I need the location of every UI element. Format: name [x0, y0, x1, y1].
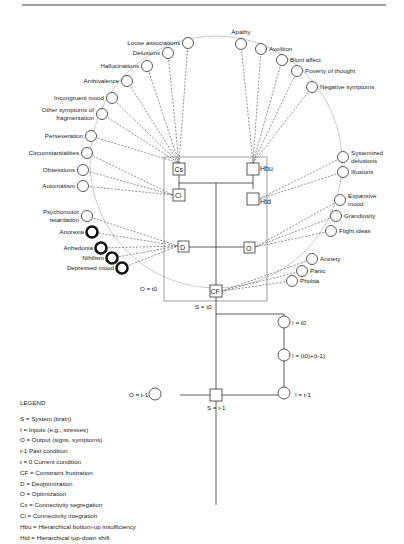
symptom-node: Grandiosity — [331, 211, 377, 222]
symptom-node: Anhedonia — [63, 243, 106, 254]
symptom-node: Hallucinations — [100, 61, 152, 72]
symptom-node: Psychomotorretardation — [43, 208, 93, 223]
symptom-label: Anorexia — [60, 228, 85, 235]
symptom-node: Circumstantialities — [29, 148, 93, 159]
symptom-node: Loose associations — [127, 38, 193, 49]
node-D: D — [178, 241, 189, 252]
legend-item: O = Optimization — [20, 489, 136, 500]
symptom-label: Other symptoms offragmentation — [42, 106, 95, 121]
symptom-label: Blunt affect — [290, 56, 321, 63]
symptom-label: Grandiosity — [344, 212, 376, 219]
symptom-label: Depressed mood — [67, 264, 115, 271]
legend-item: t-1 Past condition — [20, 446, 136, 457]
legend-title: LEGEND — [20, 398, 136, 409]
input-node-t1: I = t-1 — [278, 387, 312, 399]
input-node-mid: I = (t0)+(t-1) — [278, 349, 325, 361]
node-Hbu: Hbu — [247, 163, 273, 175]
node-CF: CF — [210, 285, 222, 297]
symptom-label: Perseveration — [45, 132, 84, 139]
input-node-t0: I = t0 — [278, 316, 306, 328]
symptom-node: Automatism — [42, 181, 88, 192]
legend-item: Htd = Hierarchical top-down shift — [20, 533, 136, 544]
svg-text:S = t-1: S = t-1 — [207, 404, 226, 411]
node-O: O — [244, 242, 255, 253]
symptom-label: Negative symptoms — [320, 83, 374, 90]
symptom-label: Flight ideas — [339, 227, 371, 234]
system-box-label: S = t0 — [195, 303, 212, 310]
symptom-node: Depressed mood — [67, 263, 128, 274]
legend-item: Ci = Connectivity integration — [20, 511, 136, 522]
symptom-node: Anorexia — [60, 227, 98, 238]
system-box — [164, 157, 267, 301]
symptom-label: Psychomotorretardation — [43, 208, 80, 223]
svg-text:Cs: Cs — [175, 166, 184, 173]
symptom-label: Circumstantialities — [29, 149, 79, 156]
legend-item: CF = Constraint frustration — [20, 468, 136, 479]
symptom-label: Anxiety — [320, 255, 341, 262]
svg-text:O: O — [246, 245, 252, 252]
internal-connections — [179, 175, 284, 505]
node-Cs: Cs — [173, 163, 185, 175]
symptom-label: Apathy — [231, 28, 251, 35]
symptom-label: Incongruent mood — [54, 94, 104, 101]
symptom-node: Avolition — [256, 44, 293, 55]
legend-item: Cs = Connectivity segregation — [20, 500, 136, 511]
legend: LEGEND S = System (brain)I = Inputs (e.g… — [20, 398, 136, 543]
symptom-node: Obsessions — [43, 165, 89, 176]
symptom-label: Avolition — [269, 45, 293, 52]
legend-item: O = Output (signs, symptoms) — [20, 435, 136, 446]
svg-text:Htd: Htd — [260, 198, 271, 205]
symptom-node: Perseveration — [45, 131, 97, 142]
symptom-label: Phobia — [300, 277, 320, 284]
symptom-label: Loose associations — [127, 39, 180, 46]
symptom-label: Poverty of thought — [305, 67, 355, 74]
svg-text:O = t-1: O = t-1 — [129, 391, 149, 398]
system-node-t1: S = t-1 — [207, 389, 226, 411]
svg-text:I = t-1: I = t-1 — [295, 391, 312, 398]
symptom-node: Ambivalence — [84, 76, 133, 87]
symptom-node: Flight ideas — [326, 226, 371, 237]
symptom-node: Apathy — [231, 28, 251, 50]
svg-text:CF: CF — [211, 288, 220, 295]
symptom-label: Ambivalence — [84, 77, 120, 84]
symptom-node: Illusions — [338, 167, 374, 178]
symptom-label: Systemizeddelusions — [351, 149, 384, 164]
symptom-node: Phobia — [287, 276, 320, 287]
symptom-node: Anxiety — [307, 254, 342, 265]
symptom-node: Negative symptoms — [307, 82, 375, 93]
svg-text:Hbu: Hbu — [260, 165, 273, 172]
legend-item: t = 0 Current condition — [20, 457, 136, 468]
legend-item: Hbu = Hierarchical bottom-up insufficien… — [20, 522, 136, 533]
symptom-label: Delusions — [133, 49, 160, 56]
symptom-node: Systemizeddelusions — [338, 149, 384, 164]
symptom-label: Hallucinations — [100, 62, 139, 69]
svg-text:Ci: Ci — [175, 192, 182, 199]
symptom-node: Delusions — [133, 48, 174, 59]
symptom-label: Automatism — [42, 182, 75, 189]
node-Ci: Ci — [173, 189, 185, 201]
svg-text:I = (t0)+(t-1): I = (t0)+(t-1) — [292, 352, 325, 359]
symptom-node: Poverty of thought — [292, 66, 356, 77]
symptom-label: Anhedonia — [63, 244, 93, 251]
symptom-label: Nihilism — [82, 254, 104, 261]
legend-item: I = Inputs (e.g., stresses) — [20, 425, 136, 436]
symptom-label: Expansivemood — [348, 192, 377, 207]
symptom-node: Blunt affect — [277, 55, 322, 66]
symptom-node: Incongruent mood — [54, 93, 117, 104]
symptom-label: Panic — [310, 267, 325, 274]
symptom-node: Nihilism — [82, 253, 117, 264]
symptom-label: Illusions — [351, 168, 373, 175]
svg-text:D: D — [180, 244, 185, 251]
svg-text:I = t0: I = t0 — [292, 319, 306, 326]
symptom-label: Obsessions — [43, 166, 75, 173]
legend-items: S = System (brain)I = Inputs (e.g., stre… — [20, 414, 136, 544]
legend-item: D = Deoptimization — [20, 479, 136, 490]
symptom-node: Panic — [297, 266, 326, 277]
output-arc-label: O = t0 — [140, 285, 158, 292]
legend-item: S = System (brain) — [20, 414, 136, 425]
symptom-node: Expansivemood — [335, 192, 378, 207]
